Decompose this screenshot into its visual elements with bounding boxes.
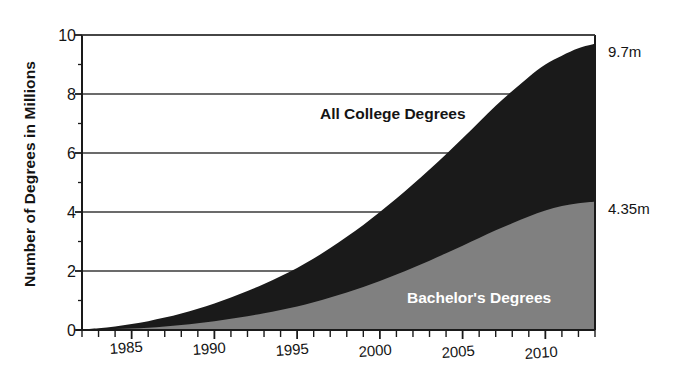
series-areas <box>82 44 595 330</box>
endpoint-label-all-college-degrees: 9.7m <box>608 44 641 59</box>
series-label-all-college-degrees: All College Degrees <box>320 106 466 122</box>
endpoint-label-bachelors-degrees: 4.35m <box>608 201 650 216</box>
series-label-bachelors-degrees: Bachelor's Degrees <box>407 290 551 306</box>
area-chart: Number of Degrees in Millions 10 8 6 4 2… <box>0 0 682 385</box>
plot-area <box>0 0 682 385</box>
